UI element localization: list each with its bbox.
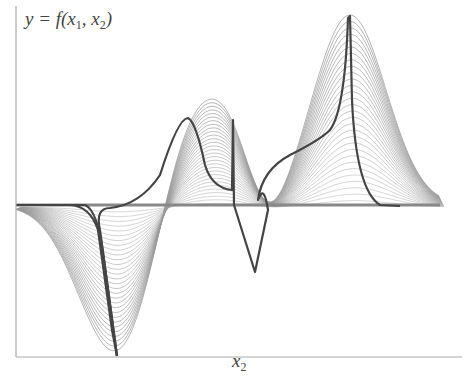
surface-plot <box>0 0 468 379</box>
highlight-curve <box>99 118 234 356</box>
y-axis-label: y = f(x1, x2) <box>25 8 112 33</box>
slice-curve <box>19 137 442 260</box>
slice-curve <box>19 117 442 274</box>
x-axis-label: x2 <box>232 350 246 375</box>
gray-slice-curves <box>16 15 444 351</box>
